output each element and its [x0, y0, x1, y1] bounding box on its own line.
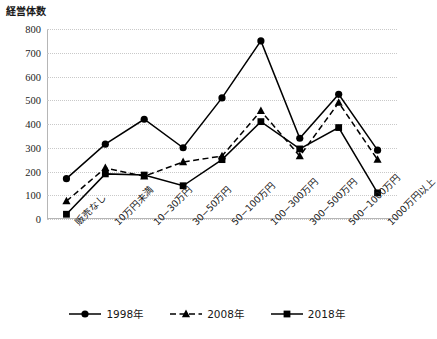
data-point-marker: [102, 170, 109, 177]
data-point-marker: [219, 156, 226, 163]
y-axis-tick-label: 200: [25, 166, 41, 177]
data-point-marker: [335, 91, 342, 98]
legend-item-2008年[interactable]: 2008年: [169, 306, 244, 321]
y-axis-title: 経営体数: [6, 3, 46, 18]
data-point-marker: [63, 175, 70, 182]
triangle-marker: [169, 308, 203, 320]
square-marker: [270, 308, 304, 320]
data-point-marker: [180, 144, 187, 151]
y-axis-tick-label: 800: [25, 24, 41, 35]
data-point-marker: [296, 135, 303, 142]
gridline: [47, 219, 397, 220]
data-point-marker: [102, 141, 109, 148]
legend-item-1998年[interactable]: 1998年: [68, 306, 143, 321]
data-point-marker: [257, 107, 265, 115]
y-axis-tick-label: 700: [25, 47, 41, 58]
legend-label: 2008年: [207, 306, 244, 321]
y-axis-tick-label: 300: [25, 142, 41, 153]
y-axis-tick-label: 0: [36, 214, 41, 225]
y-axis-tick-label: 400: [25, 119, 41, 130]
data-point-marker: [257, 37, 264, 44]
data-point-marker: [218, 94, 225, 101]
data-point-marker: [296, 146, 303, 153]
legend-label: 1998年: [106, 306, 143, 321]
data-point-marker: [141, 116, 148, 123]
data-point-marker: [257, 118, 264, 125]
data-point-marker: [335, 124, 342, 131]
data-point-marker: [101, 164, 109, 172]
y-axis-tick-label: 100: [25, 190, 41, 201]
data-point-marker: [374, 147, 381, 154]
y-axis-tick-label: 600: [25, 71, 41, 82]
y-axis-tick-label: 500: [25, 95, 41, 106]
chart-legend: 1998年2008年2018年: [0, 306, 413, 321]
data-point-marker: [63, 211, 70, 218]
legend-label: 2018年: [308, 306, 345, 321]
data-point-marker: [141, 172, 148, 179]
circle-marker: [68, 308, 102, 320]
legend-item-2018年[interactable]: 2018年: [270, 306, 345, 321]
